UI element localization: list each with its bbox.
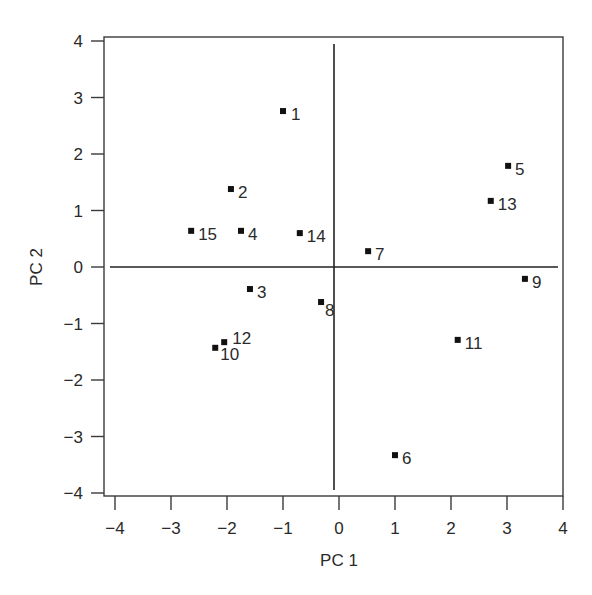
square-marker-icon <box>488 198 494 204</box>
square-marker-icon <box>238 228 244 234</box>
y-tick-label: 1 <box>74 202 83 221</box>
data-point-14: 14 <box>297 227 326 246</box>
data-point-1: 1 <box>280 105 300 124</box>
data-point-3: 3 <box>247 283 266 302</box>
square-marker-icon <box>365 248 371 254</box>
point-label: 4 <box>248 225 257 244</box>
data-point-15: 15 <box>188 225 217 244</box>
data-point-11: 11 <box>455 334 483 353</box>
data-point-5: 5 <box>505 160 524 179</box>
point-label: 6 <box>402 449 411 468</box>
point-label: 5 <box>515 160 524 179</box>
pca-scatter-plot: −4−3−2−101234 −4−3−2−101234 123456789101… <box>0 0 592 595</box>
x-tick-label: 2 <box>446 519 455 538</box>
y-tick-label: −4 <box>64 484 83 503</box>
square-marker-icon <box>297 230 303 236</box>
point-label: 2 <box>238 183 247 202</box>
square-marker-icon <box>212 345 218 351</box>
data-point-6: 6 <box>392 449 411 468</box>
x-tick-label: 3 <box>502 519 511 538</box>
point-label: 15 <box>198 225 217 244</box>
reference-lines <box>110 44 558 490</box>
x-tick-label: 0 <box>334 519 343 538</box>
point-label: 13 <box>498 195 517 214</box>
y-tick-label: −2 <box>64 371 83 390</box>
square-marker-icon <box>247 286 253 292</box>
x-tick-label: −3 <box>161 519 180 538</box>
square-marker-icon <box>505 163 511 169</box>
y-tick-label: 0 <box>74 258 83 277</box>
square-marker-icon <box>392 452 398 458</box>
x-tick-label: −2 <box>217 519 236 538</box>
y-axis-title: PC 2 <box>27 248 46 286</box>
square-marker-icon <box>318 299 324 305</box>
data-point-8: 8 <box>318 299 334 320</box>
x-tick-label: 4 <box>558 519 567 538</box>
x-axis: −4−3−2−101234 <box>105 496 567 538</box>
y-tick-label: 3 <box>74 89 83 108</box>
data-point-2: 2 <box>228 183 247 202</box>
y-tick-label: −3 <box>64 428 83 447</box>
x-tick-label: −1 <box>273 519 292 538</box>
square-marker-icon <box>221 339 227 345</box>
square-marker-icon <box>280 108 286 114</box>
data-points: 123456789101112131415 <box>188 105 541 468</box>
x-tick-label: −4 <box>105 519 124 538</box>
point-label: 11 <box>465 334 483 353</box>
data-point-4: 4 <box>238 225 257 244</box>
x-axis-title: PC 1 <box>320 551 358 570</box>
point-label: 9 <box>532 273 541 292</box>
square-marker-icon <box>522 276 528 282</box>
y-tick-label: −1 <box>64 315 83 334</box>
point-label: 8 <box>325 301 334 320</box>
point-label: 3 <box>257 283 266 302</box>
point-label: 14 <box>307 227 326 246</box>
y-tick-label: 4 <box>74 32 83 51</box>
data-point-7: 7 <box>365 245 384 264</box>
data-point-9: 9 <box>522 273 541 292</box>
x-tick-label: 1 <box>390 519 399 538</box>
data-point-13: 13 <box>488 195 517 214</box>
y-axis: −4−3−2−101234 <box>64 32 104 503</box>
point-label: 1 <box>291 105 300 124</box>
point-label: 12 <box>232 329 251 348</box>
y-tick-label: 2 <box>74 145 83 164</box>
square-marker-icon <box>188 228 194 234</box>
square-marker-icon <box>455 337 461 343</box>
square-marker-icon <box>228 186 234 192</box>
point-label: 7 <box>375 245 384 264</box>
